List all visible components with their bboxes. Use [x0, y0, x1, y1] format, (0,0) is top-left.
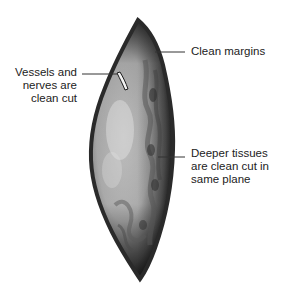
label-deeper-tissues: Deeper tissues are clean cut in same pla…: [191, 147, 269, 186]
label-clean-margins: Clean margins: [191, 45, 265, 58]
specimen-diagram: Clean margins Vessels and nerves are cle…: [0, 0, 282, 294]
specimen-shape: [85, 15, 180, 285]
label-vessels-nerves: Vessels and nerves are clean cut: [6, 66, 77, 105]
